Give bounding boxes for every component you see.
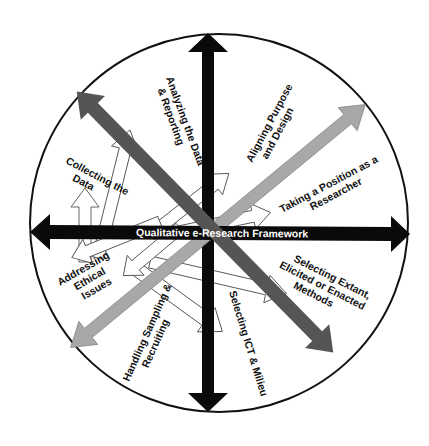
framework-diagram: Qualitative e-Research Framework Alignin… — [0, 0, 429, 446]
center-framework-label: Qualitative e-Research Framework — [136, 226, 308, 240]
